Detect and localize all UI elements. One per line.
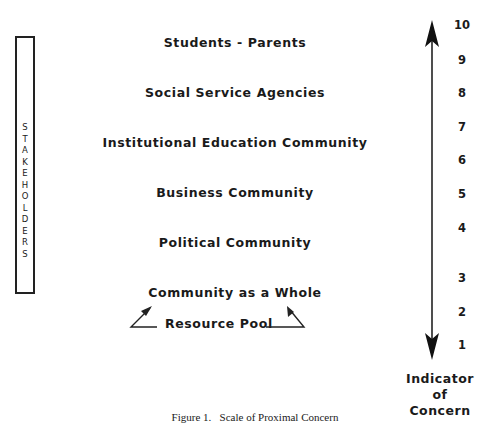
indicator-of-concern-label: Indicator of Concern: [400, 371, 480, 419]
tick-4: 4: [452, 221, 472, 235]
resource-arrow-right-icon: [266, 306, 304, 327]
tick-8: 8: [452, 86, 472, 100]
indicator-line-1: Indicator: [400, 371, 480, 387]
tick-6: 6: [452, 153, 472, 167]
figure-caption: Figure 1. Scale of Proximal Concern: [140, 411, 370, 423]
indicator-line-3: Concern: [400, 403, 480, 419]
tick-1: 1: [452, 338, 472, 352]
resource-arrow-left-icon: [131, 306, 157, 327]
tick-7: 7: [452, 120, 472, 134]
tick-9: 9: [452, 53, 472, 67]
diagram-arrows: [0, 0, 484, 433]
tick-10: 10: [452, 18, 472, 32]
tick-5: 5: [452, 187, 472, 201]
indicator-line-2: of: [400, 387, 480, 403]
tick-2: 2: [452, 305, 472, 319]
scale-double-arrow-icon: [425, 20, 439, 360]
tick-3: 3: [452, 271, 472, 285]
